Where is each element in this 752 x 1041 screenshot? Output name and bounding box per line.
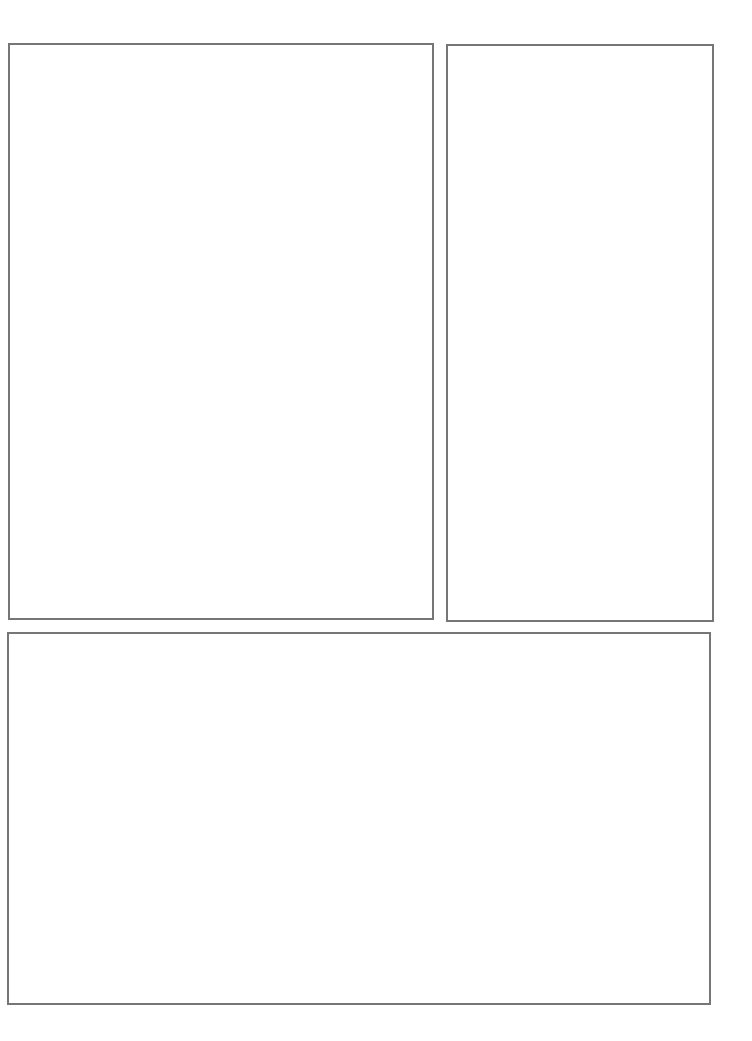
panel-bottom [7, 632, 711, 1005]
panel-top-right [446, 44, 714, 622]
panel-top-left [8, 43, 434, 620]
